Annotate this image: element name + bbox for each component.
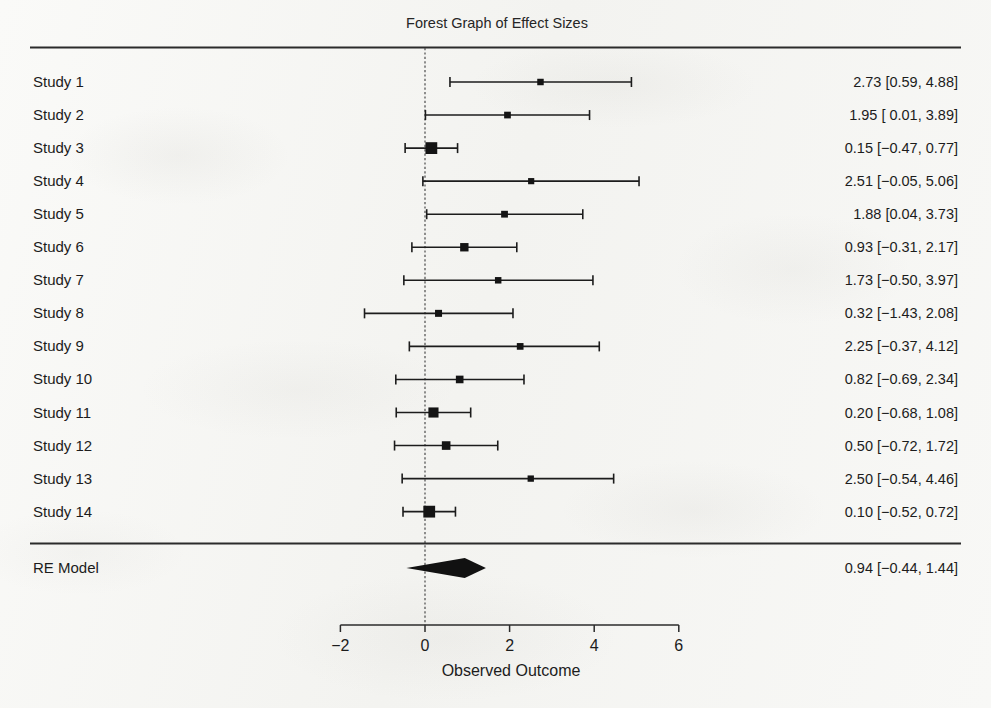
study-label: Study 1 xyxy=(33,73,84,90)
point-estimate-marker xyxy=(501,211,508,218)
forest-row: Study 30.15 [−0.47, 0.77] xyxy=(33,139,958,156)
summary-diamond xyxy=(406,558,486,578)
estimate-ci-label: 0.20 [−0.68, 1.08] xyxy=(845,405,958,421)
forest-row: Study 51.88 [0.04, 3.73] xyxy=(33,205,958,222)
plot-title: Forest Graph of Effect Sizes xyxy=(406,15,588,31)
estimate-ci-label: 2.51 [−0.05, 5.06] xyxy=(845,173,958,189)
estimate-ci-label: 0.10 [−0.52, 0.72] xyxy=(845,504,958,520)
point-estimate-marker xyxy=(456,376,464,384)
estimate-ci-label: 0.82 [−0.69, 2.34] xyxy=(845,371,958,387)
point-estimate-marker xyxy=(435,310,442,317)
figure-page: Forest Graph of Effect Sizes Study 12.73… xyxy=(0,0,991,708)
estimate-ci-label: 1.88 [0.04, 3.73] xyxy=(853,206,958,222)
x-axis-tick-label: 6 xyxy=(674,637,683,654)
summary-row: RE Model0.94 [−0.44, 1.44] xyxy=(33,558,958,578)
point-estimate-marker xyxy=(517,343,524,350)
forest-plot: Forest Graph of Effect Sizes Study 12.73… xyxy=(0,0,991,708)
study-label: Study 9 xyxy=(33,337,84,354)
point-estimate-marker xyxy=(428,407,438,417)
point-estimate-marker xyxy=(442,441,451,450)
study-label: Study 8 xyxy=(33,304,84,321)
point-estimate-marker xyxy=(425,142,437,154)
forest-row: Study 140.10 [−0.52, 0.72] xyxy=(33,503,958,520)
x-axis: −20246 xyxy=(331,625,683,654)
point-estimate-marker xyxy=(495,277,501,283)
study-label: Study 12 xyxy=(33,437,92,454)
estimate-ci-label: 1.73 [−0.50, 3.97] xyxy=(845,272,958,288)
estimate-ci-label: 2.25 [−0.37, 4.12] xyxy=(845,338,958,354)
estimate-ci-label: 1.95 [ 0.01, 3.89] xyxy=(849,107,958,123)
forest-row: Study 92.25 [−0.37, 4.12] xyxy=(33,337,958,354)
forest-row: Study 60.93 [−0.31, 2.17] xyxy=(33,238,958,255)
study-label: Study 14 xyxy=(33,503,92,520)
x-axis-tick-label: 4 xyxy=(590,637,599,654)
study-label: Study 11 xyxy=(33,404,91,421)
estimate-ci-label: 2.73 [0.59, 4.88] xyxy=(853,74,958,90)
forest-row: Study 80.32 [−1.43, 2.08] xyxy=(33,304,958,321)
forest-row: Study 132.50 [−0.54, 4.46] xyxy=(33,470,958,487)
forest-row: Study 100.82 [−0.69, 2.34] xyxy=(33,370,958,387)
estimate-ci-label: 0.15 [−0.47, 0.77] xyxy=(845,140,958,156)
forest-row: Study 12.73 [0.59, 4.88] xyxy=(33,73,958,90)
study-label: Study 13 xyxy=(33,470,92,487)
study-label: Study 10 xyxy=(33,370,92,387)
estimate-ci-label: 0.93 [−0.31, 2.17] xyxy=(845,239,958,255)
forest-row: Study 71.73 [−0.50, 3.97] xyxy=(33,271,958,288)
estimate-ci-label: 0.50 [−0.72, 1.72] xyxy=(845,438,958,454)
x-axis-tick-label: 2 xyxy=(505,637,514,654)
study-label: Study 7 xyxy=(33,271,84,288)
study-label: Study 6 xyxy=(33,238,84,255)
point-estimate-marker xyxy=(528,178,534,184)
forest-row: Study 110.20 [−0.68, 1.08] xyxy=(33,404,958,421)
study-label: Study 3 xyxy=(33,139,84,156)
estimate-ci-label: 2.50 [−0.54, 4.46] xyxy=(845,471,958,487)
forest-row: Study 21.95 [ 0.01, 3.89] xyxy=(33,106,958,123)
point-estimate-marker xyxy=(528,475,534,481)
summary-estimate-ci-label: 0.94 [−0.44, 1.44] xyxy=(845,560,958,576)
point-estimate-marker xyxy=(504,112,511,119)
forest-row: Study 42.51 [−0.05, 5.06] xyxy=(33,172,958,189)
summary-label: RE Model xyxy=(33,559,99,576)
x-axis-tick-label: 0 xyxy=(421,637,430,654)
estimate-ci-label: 0.32 [−1.43, 2.08] xyxy=(845,305,958,321)
point-estimate-marker xyxy=(537,79,543,85)
point-estimate-marker xyxy=(460,243,468,251)
study-rows: Study 12.73 [0.59, 4.88]Study 21.95 [ 0.… xyxy=(33,73,958,520)
study-label: Study 2 xyxy=(33,106,84,123)
forest-row: Study 120.50 [−0.72, 1.72] xyxy=(33,437,958,454)
x-axis-tick-label: −2 xyxy=(331,637,349,654)
study-label: Study 5 xyxy=(33,205,84,222)
x-axis-title: Observed Outcome xyxy=(442,662,581,679)
point-estimate-marker xyxy=(423,506,435,518)
study-label: Study 4 xyxy=(33,172,84,189)
